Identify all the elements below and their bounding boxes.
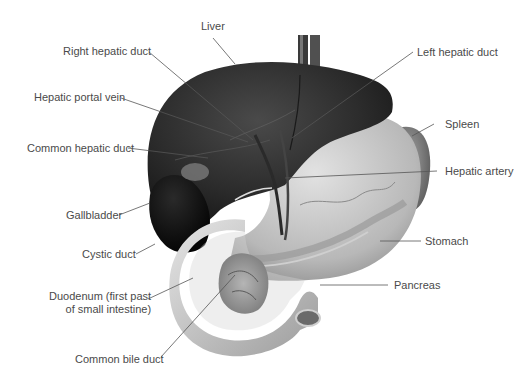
label-spleen: Spleen xyxy=(445,118,479,131)
pancreas xyxy=(219,253,269,313)
label-duodenum: Duodenum (first past of small intestine) xyxy=(49,290,151,316)
label-duodenum-line1: Duodenum (first past xyxy=(49,290,151,303)
label-duodenum-line2: of small intestine) xyxy=(49,303,151,316)
label-cystic-duct: Cystic duct xyxy=(82,248,136,261)
duodenum-opening xyxy=(296,310,320,326)
label-right-hepatic-duct: Right hepatic duct xyxy=(63,45,151,58)
label-hepatic-portal-vein: Hepatic portal vein xyxy=(34,91,125,104)
label-pancreas: Pancreas xyxy=(394,279,440,292)
label-hepatic-artery: Hepatic artery xyxy=(445,165,513,178)
label-gallbladder: Gallbladder xyxy=(66,209,122,222)
label-common-hepatic-duct: Common hepatic duct xyxy=(27,142,134,155)
label-common-bile-duct: Common bile duct xyxy=(75,353,164,366)
label-liver: Liver xyxy=(201,20,225,33)
label-left-hepatic-duct: Left hepatic duct xyxy=(417,46,498,59)
label-stomach: Stomach xyxy=(425,235,468,248)
